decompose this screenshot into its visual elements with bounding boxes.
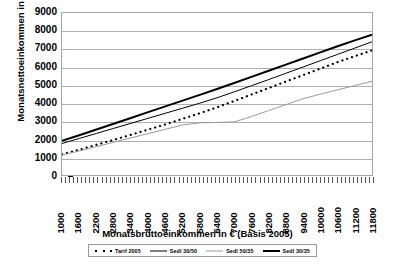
y-axis-tick-label: 1000 bbox=[35, 153, 57, 163]
y-axis-tick-label: 4000 bbox=[35, 98, 57, 108]
x-axis-minor-ticks bbox=[61, 177, 373, 183]
series-line bbox=[62, 81, 372, 155]
legend-label: Sedl 50/35 bbox=[226, 248, 253, 254]
series-line bbox=[62, 35, 372, 141]
legend-swatch bbox=[150, 248, 167, 254]
legend-item[interactable]: Sedl 30/35 bbox=[263, 248, 310, 254]
series-lines bbox=[62, 13, 372, 175]
chart-legend: Tarif 2005Sedl 30/50Sedl 50/35Sedl 30/35 bbox=[88, 244, 317, 257]
y-axis-tick-label: 9000 bbox=[35, 7, 57, 17]
y-axis-tick-label: 3000 bbox=[35, 116, 57, 126]
y-axis-tick-label: 5000 bbox=[35, 80, 57, 90]
y-axis-tick-label: 0 bbox=[51, 171, 57, 181]
y-axis-tick-label: 8000 bbox=[35, 25, 57, 35]
legend-item[interactable]: Sedl 30/50 bbox=[150, 248, 197, 254]
x-axis-title: Monatsbruttoeinkommen in € (Basis 2005) bbox=[0, 228, 395, 239]
legend-item[interactable]: Sedl 50/35 bbox=[206, 248, 253, 254]
legend-swatch bbox=[263, 248, 280, 254]
y-axis-tick-label: 2000 bbox=[35, 135, 57, 145]
legend-label: Sedl 30/35 bbox=[283, 248, 310, 254]
y-axis-tick-labels: 9000800070006000500040003000200010000 bbox=[12, 12, 57, 176]
legend-label: Sedl 30/50 bbox=[170, 248, 197, 254]
chart-title: Monatsnettoeinkommen nach Tarifmodellen bbox=[0, 0, 395, 2]
legend-swatch bbox=[206, 248, 223, 254]
y-axis-tick-label: 7000 bbox=[35, 43, 57, 53]
y-axis-tick-label: 6000 bbox=[35, 62, 57, 72]
plot-area bbox=[61, 12, 373, 176]
chart-container: Monatsnettoeinkommen nach Tarifmodellen … bbox=[0, 0, 395, 268]
legend-swatch bbox=[95, 248, 112, 254]
series-line bbox=[62, 50, 372, 154]
x-axis-tick-labels: 1000160022002800340040004600520058006400… bbox=[61, 185, 373, 233]
legend-label: Tarif 2005 bbox=[115, 248, 141, 254]
legend-item[interactable]: Tarif 2005 bbox=[95, 248, 141, 254]
